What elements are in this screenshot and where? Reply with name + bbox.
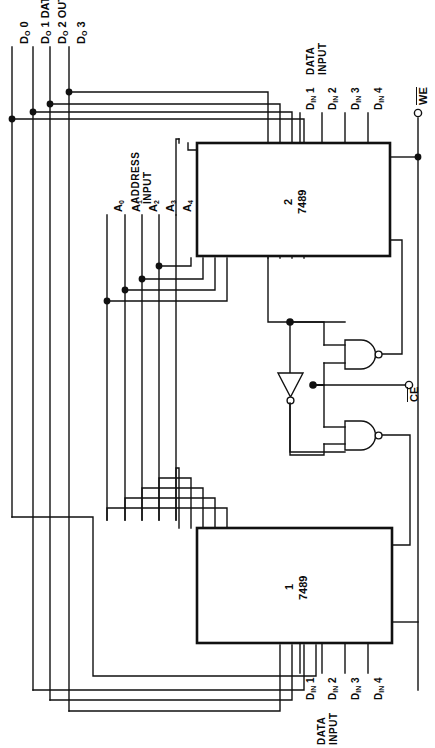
- nand-lower-body: [345, 421, 376, 450]
- label-data-input-bottom-line1: DATA: [316, 717, 327, 745]
- wire-do1-bottom-run: [33, 645, 304, 690]
- label-chip2-din4: DIN 4: [373, 87, 385, 110]
- label-chip2-din1: DIN 1: [305, 87, 317, 110]
- label-a1: A1: [130, 200, 143, 212]
- wire-a1-top: [125, 258, 215, 290]
- junction-ce-node: [309, 381, 317, 389]
- label-chip1-din2: DIN 2: [327, 677, 339, 700]
- label-address-input-line1: ADDRESS: [130, 152, 141, 204]
- label-do1-d: D: [39, 36, 51, 44]
- label-chip1-din3: DIN 3: [350, 677, 362, 700]
- label-do0-sub: O: [24, 31, 31, 36]
- junction-we-chip2: [415, 154, 422, 161]
- we-terminal-circle: [414, 109, 421, 116]
- label-write-enable: WE: [416, 87, 429, 105]
- chip2-number: 2: [282, 199, 294, 205]
- label-chip-enable: CE: [407, 387, 420, 402]
- nand-lower-output-bubble: [375, 432, 382, 439]
- inverter-body: [278, 373, 303, 397]
- label-a2: A2: [147, 200, 160, 212]
- label-do2: DO 2 OUTPUT: [56, 0, 69, 44]
- label-chip1-din4: DIN 4: [373, 677, 385, 700]
- junction-a3: [156, 263, 163, 270]
- label-do0: DO 0: [18, 21, 31, 44]
- circuit-diagram-canvas: DO 0 DO 1 DATA DO 2 OUTPUT DO 3 ADDRESS …: [0, 0, 435, 748]
- wire-a3-top: [159, 258, 191, 266]
- chip2-left-stub: [188, 143, 197, 150]
- junction-a2: [139, 276, 146, 283]
- chip1-type: 7489: [297, 576, 309, 600]
- nand-upper-output-bubble: [375, 351, 382, 358]
- wire-gate-common-from-top: [268, 258, 290, 322]
- label-do3: DO 3: [75, 21, 88, 44]
- label-data-input-bottom-line2: INPUT: [328, 713, 339, 746]
- nand-upper-body: [345, 340, 376, 369]
- label-do3-sub: O: [81, 31, 88, 36]
- chip1-number: 1: [283, 584, 295, 590]
- label-data-input-top-line1: DATA: [305, 47, 316, 75]
- wire-a2-top: [142, 258, 203, 279]
- chip2-type: 7489: [296, 190, 308, 214]
- label-a4: A4: [181, 200, 194, 212]
- wire-a3-bottom: [159, 478, 191, 528]
- nand-lower-in2-route: [290, 403, 324, 455]
- wire-do3-bottom-run: [69, 645, 280, 711]
- label-data-input-top-line2: INPUT: [317, 43, 328, 76]
- label-a0: A0: [112, 200, 125, 212]
- label-chip2-din2: DIN 2: [327, 87, 339, 110]
- nand-lower-in1-route: [313, 385, 324, 427]
- junction-do3-top: [66, 89, 73, 96]
- nand-upper-in1-route: [290, 322, 324, 345]
- wire-do2-bottom-run: [50, 645, 292, 700]
- junction-do2-top: [47, 101, 54, 108]
- junction-gate-node-top: [286, 318, 294, 326]
- wire-a1-bottom: [125, 498, 215, 528]
- label-address-input-line2: INPUT: [142, 172, 153, 205]
- label-do1-sub: O: [45, 31, 52, 36]
- junction-a0: [104, 298, 111, 305]
- junction-do1-top: [30, 109, 37, 116]
- label-do2-sub: O: [62, 31, 69, 36]
- junction-a1: [122, 287, 129, 294]
- label-chip1-din1: DIN 1: [305, 677, 317, 700]
- label-chip2-din3: DIN 3: [350, 87, 362, 110]
- label-do2-d: D: [56, 36, 68, 44]
- label-data-word: DATA: [39, 0, 51, 18]
- label-do3-d: D: [75, 36, 87, 44]
- label-do1: DO 1 DATA: [39, 0, 52, 44]
- wires-group: [9, 47, 422, 711]
- junction-do0-top: [9, 116, 16, 123]
- schematic-vector-layer: [0, 0, 435, 748]
- label-a3: A3: [164, 200, 177, 212]
- label-do0-d: D: [18, 36, 30, 44]
